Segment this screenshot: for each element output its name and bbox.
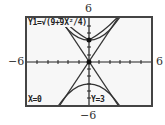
- xmax-label: 6: [156, 56, 163, 67]
- cursor-y-value: Y=3: [91, 96, 105, 104]
- ymin-label: −6: [80, 110, 96, 121]
- cursor-x-value: X=0: [28, 96, 42, 104]
- equation-label: Y1=√(9+9X²/4): [28, 19, 87, 27]
- trace-cursor: [87, 38, 92, 43]
- graph-plot: [27, 18, 151, 105]
- ymax-label: 6: [85, 3, 92, 14]
- calculator-screen: Y1=√(9+9X²/4) X=0 Y=3: [25, 16, 153, 107]
- xmin-label: −6: [8, 56, 24, 67]
